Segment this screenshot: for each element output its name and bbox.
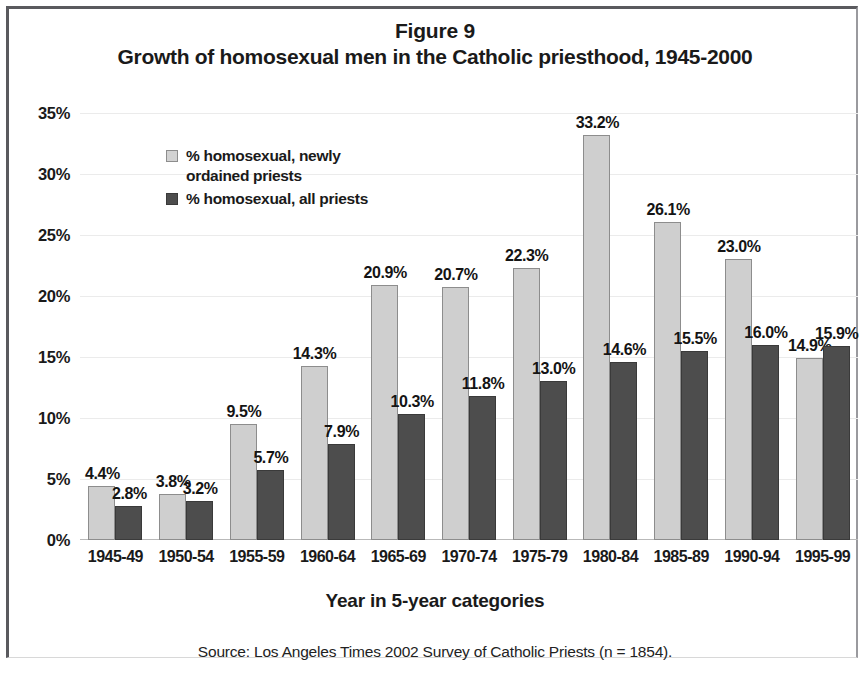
bar-value-label: 26.1%: [631, 201, 705, 219]
bar-newly-ordained[interactable]: [654, 222, 681, 540]
bar-value-label: 22.3%: [490, 247, 564, 265]
y-axis-tick-label: 0%: [14, 531, 70, 550]
bar-newly-ordained[interactable]: [159, 494, 186, 540]
legend-swatch-icon-light: [166, 150, 178, 162]
legend-item-all-priests: % homosexual, all priests: [166, 189, 406, 209]
bar-all-priests[interactable]: [540, 381, 567, 540]
bar-value-label: 3.2%: [163, 480, 237, 498]
legend-label-newly-ordained: % homosexual, newly ordained priests: [186, 147, 341, 184]
figure-number: Figure 9: [40, 18, 830, 44]
bar-all-priests[interactable]: [681, 351, 708, 540]
bar-value-label: 10.3%: [375, 393, 449, 411]
bar-newly-ordained[interactable]: [513, 268, 540, 540]
bar-value-label: 15.9%: [800, 325, 865, 343]
bar-value-label: 14.3%: [278, 345, 352, 363]
bar-value-label: 33.2%: [560, 114, 634, 132]
bar-group: 4.4%2.8%: [88, 113, 142, 540]
bar-value-label: 13.0%: [517, 360, 591, 378]
y-axis-tick-label: 20%: [14, 287, 70, 306]
bar-newly-ordained[interactable]: [583, 135, 610, 540]
y-axis-tick-label: 35%: [14, 104, 70, 123]
bar-all-priests[interactable]: [115, 506, 142, 540]
bar-group: 14.9%15.9%: [796, 113, 850, 540]
x-axis-tick-labels: 1945-491950-541955-591960-641965-691970-…: [80, 548, 858, 574]
chart-legend: % homosexual, newly ordained priests % h…: [166, 146, 406, 211]
bar-all-priests[interactable]: [823, 346, 850, 540]
chart-title-block: Figure 9 Growth of homosexual men in the…: [40, 18, 830, 69]
bar-all-priests[interactable]: [186, 501, 213, 540]
bar-all-priests[interactable]: [257, 470, 284, 540]
x-axis-title: Year in 5-year categories: [40, 590, 830, 612]
y-axis-tick-label: 10%: [14, 409, 70, 428]
y-axis-tick-label: 30%: [14, 165, 70, 184]
bar-value-label: 7.9%: [305, 423, 379, 441]
bar-value-label: 20.9%: [348, 264, 422, 282]
legend-label-all-priests: % homosexual, all priests: [186, 190, 368, 207]
figure-chart: Figure 9 Growth of homosexual men in the…: [0, 0, 865, 686]
bar-group: 22.3%13.0%: [513, 113, 567, 540]
bar-all-priests[interactable]: [469, 396, 496, 540]
legend-swatch-icon-dark: [166, 193, 178, 205]
bar-newly-ordained[interactable]: [301, 366, 328, 540]
bar-value-label: 5.7%: [234, 449, 308, 467]
bar-value-label: 15.5%: [658, 330, 732, 348]
bar-newly-ordained[interactable]: [442, 287, 469, 540]
bar-all-priests[interactable]: [398, 414, 425, 540]
bar-group: 33.2%14.6%: [583, 113, 637, 540]
bar-value-label: 23.0%: [702, 238, 776, 256]
bar-group: 20.7%11.8%: [442, 113, 496, 540]
bar-group: 23.0%16.0%: [725, 113, 779, 540]
bar-newly-ordained[interactable]: [796, 358, 823, 540]
bar-all-priests[interactable]: [752, 345, 779, 540]
y-axis-tick-label: 5%: [14, 470, 70, 489]
y-axis-tick-label: 25%: [14, 226, 70, 245]
bar-newly-ordained[interactable]: [371, 285, 398, 540]
bar-newly-ordained[interactable]: [725, 259, 752, 540]
bar-value-label: 20.7%: [419, 266, 493, 284]
bar-value-label: 14.6%: [587, 341, 661, 359]
bar-value-label: 4.4%: [65, 465, 139, 483]
bar-all-priests[interactable]: [328, 444, 355, 540]
bar-newly-ordained[interactable]: [230, 424, 257, 540]
bar-group: 26.1%15.5%: [654, 113, 708, 540]
bar-all-priests[interactable]: [610, 362, 637, 540]
x-axis-tick-label: 1995-99: [778, 548, 865, 566]
source-note: Source: Los Angeles Times 2002 Survey of…: [40, 643, 830, 661]
y-axis-tick-label: 15%: [14, 348, 70, 367]
bar-value-label: 9.5%: [207, 403, 281, 421]
page-title: Growth of homosexual men in the Catholic…: [40, 44, 830, 70]
bar-value-label: 11.8%: [446, 375, 520, 393]
legend-item-newly-ordained: % homosexual, newly ordained priests: [166, 146, 406, 187]
